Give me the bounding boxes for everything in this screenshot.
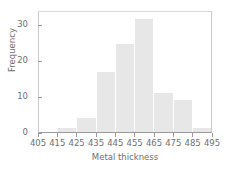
histogram-bar — [193, 128, 211, 132]
histogram-bar — [174, 100, 193, 132]
x-tick-mark — [134, 133, 135, 137]
y-tick-label: 10 — [17, 91, 28, 101]
y-axis-title: Frequency — [7, 12, 17, 88]
x-tick-mark — [115, 133, 116, 137]
x-tick-mark — [154, 133, 155, 137]
histogram-bar — [116, 44, 135, 132]
x-tick-mark — [38, 133, 39, 137]
histogram-bar — [77, 118, 96, 132]
x-axis-title: Metal thickness — [38, 152, 212, 162]
y-tick-label: 0 — [23, 127, 28, 137]
y-tick-mark — [38, 97, 42, 98]
x-tick-mark — [212, 133, 213, 137]
bar-series — [39, 12, 211, 132]
y-tick-mark — [38, 61, 42, 62]
x-tick-label: 495 — [201, 138, 223, 148]
y-tick-mark — [38, 133, 42, 134]
x-tick-mark — [173, 133, 174, 137]
histogram-bar — [154, 93, 173, 132]
y-tick-mark — [38, 25, 42, 26]
x-tick-mark — [192, 133, 193, 137]
histogram-figure: Frequency Metal thickness 01020304054154… — [0, 0, 229, 170]
x-tick-mark — [76, 133, 77, 137]
y-tick-label: 20 — [17, 55, 28, 65]
x-tick-mark — [57, 133, 58, 137]
histogram-bar — [97, 72, 116, 132]
x-tick-mark — [96, 133, 97, 137]
y-tick-label: 30 — [17, 19, 28, 29]
histogram-bar — [58, 128, 77, 132]
plot-area — [38, 11, 212, 133]
histogram-bar — [135, 19, 154, 132]
